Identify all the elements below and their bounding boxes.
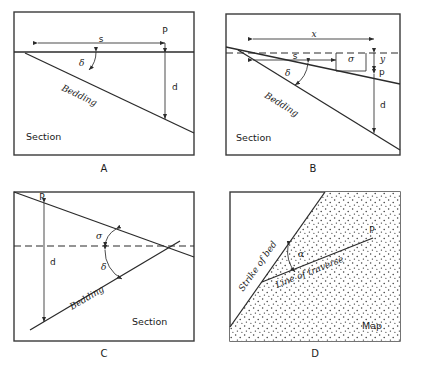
panel-d-label-p: P [369,225,375,235]
panel-c-label-p: P [39,192,45,202]
panel-b-label-y: y [379,54,386,64]
panel-a: s P d δ Bedding Section A [14,12,194,174]
panel-d-label-alpha: α [298,249,304,259]
panel-b-view-label: Section [236,132,271,143]
panel-a-letter: A [101,163,108,174]
panel-b-letter: B [310,163,317,174]
panel-c-view-label: Section [132,316,167,327]
panel-d-letter: D [311,348,319,359]
panel-b: x s σ y p d δ Bedding Section B [226,14,400,174]
panel-a-view-label: Section [26,131,61,142]
panel-b-label-p: p [379,67,385,77]
panel-c: P d σ δ Bedding Section C [14,192,194,359]
panel-c-letter: C [101,348,108,359]
panel-c-label-d: d [50,257,56,267]
panel-a-label-p: P [162,26,168,36]
panel-a-label-s: s [99,34,104,44]
panel-d: α Strike of bed Line of traverse P Map D [230,192,400,359]
panel-d-view-label: Map [362,320,382,331]
figure-container: s P d δ Bedding Section A x s [0,0,422,366]
panel-c-label-sigma: σ [96,231,103,241]
geology-figure: s P d δ Bedding Section A x s [0,0,422,366]
panel-b-label-sigma: σ [348,54,355,64]
panel-a-label-delta: δ [79,58,84,68]
panel-b-label-s: s [293,51,298,61]
panel-b-label-x: x [311,29,316,39]
panel-b-label-d: d [380,100,386,110]
panel-c-label-delta: δ [101,262,106,272]
panel-b-label-delta: δ [285,68,290,78]
panel-a-label-d: d [172,82,178,92]
